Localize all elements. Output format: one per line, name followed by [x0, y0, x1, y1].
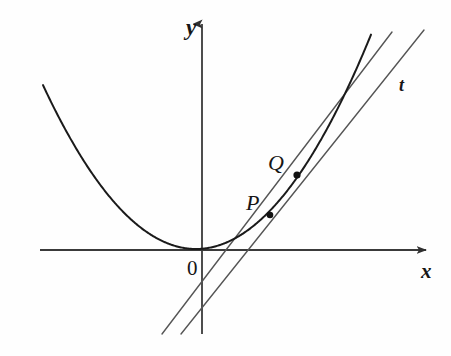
origin-label: 0 — [187, 258, 198, 279]
parabola-secant-tangent-figure — [0, 0, 451, 356]
point-p-label: P — [246, 192, 259, 214]
y-axis-label: y — [186, 16, 196, 39]
axes-group — [40, 24, 426, 334]
point-p-marker — [267, 212, 274, 219]
figure-container: y x t P Q 0 — [0, 0, 451, 356]
secant-line-pq — [162, 32, 392, 334]
x-axis-label: x — [421, 261, 432, 282]
point-q-label: Q — [268, 152, 284, 174]
tangent-line-label: t — [399, 76, 404, 94]
point-q-marker — [293, 171, 300, 178]
parabola-curve — [43, 35, 371, 249]
tangent-line-t — [181, 30, 424, 334]
